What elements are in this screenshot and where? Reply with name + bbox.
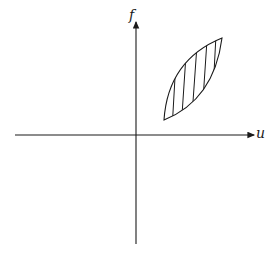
u-axis-label: u — [256, 126, 265, 140]
f-axis-label: f — [129, 8, 134, 22]
diagram-svg — [0, 0, 278, 260]
hatched-region — [164, 35, 222, 130]
diagram-canvas: f u — [0, 0, 278, 260]
